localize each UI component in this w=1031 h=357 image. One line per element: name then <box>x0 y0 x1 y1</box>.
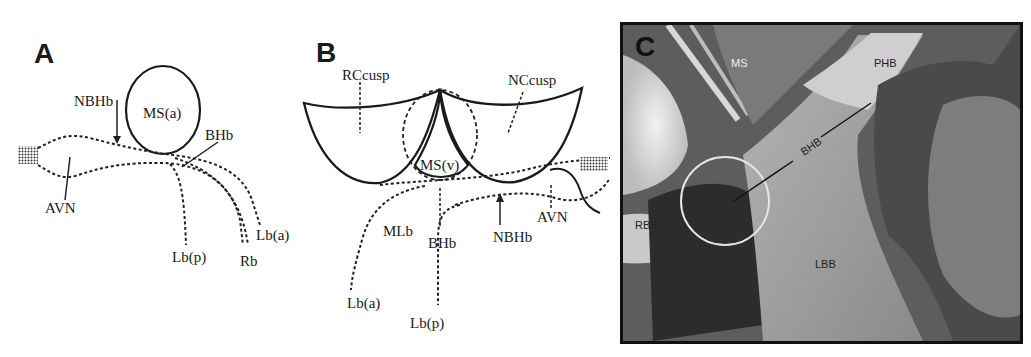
label-lbb: LBB <box>815 258 836 270</box>
rb-branch-dotted <box>175 158 248 245</box>
label-ms-v: MS(v) <box>420 157 459 174</box>
nbhb-arrowhead <box>113 136 121 144</box>
panel-c-photo-rendering: MS PHB BHB RBB LBB <box>623 25 1020 341</box>
lb-p-branch-dotted <box>438 205 460 305</box>
nccusp-pointer <box>508 92 523 133</box>
avn-solid-line <box>550 169 600 213</box>
label-bhb: BHb <box>205 127 233 143</box>
label-rb: Rb <box>240 253 258 269</box>
label-nccusp: NCcusp <box>508 72 556 88</box>
avn-pointer <box>65 157 70 200</box>
label-rbb: RBB <box>635 219 658 231</box>
avn-hatch <box>580 157 608 171</box>
panel-a-schematic: A MS(a) NBHb BHb AVN <box>0 0 300 357</box>
label-ms: MS <box>731 57 748 69</box>
label-avn: AVN <box>537 209 568 225</box>
panel-b-schematic: B RCc <box>280 0 620 357</box>
panel-c-photograph: MS PHB BHB RBB LBB C <box>620 22 1023 344</box>
photo-dark-left <box>648 184 763 341</box>
label-nbhb: NBHb <box>493 229 532 245</box>
label-bhb: BHb <box>428 235 456 251</box>
label-nbhb: NBHb <box>74 93 113 109</box>
nbhb-arrowhead <box>496 193 504 202</box>
label-phb: PHB <box>874 57 897 69</box>
panel-c-letter: C <box>635 31 655 63</box>
label-mlb: MLb <box>383 223 413 239</box>
lb-p-branch-dotted <box>170 164 186 245</box>
bhb-pointer <box>182 142 218 167</box>
bundle-lower-dotted <box>455 178 610 205</box>
label-ms-a: MS(a) <box>143 105 181 122</box>
label-lb-p: Lb(p) <box>410 315 444 332</box>
label-lb-a: Lb(a) <box>347 295 380 312</box>
panel-b-letter: B <box>316 37 336 69</box>
label-lb-p: Lb(p) <box>172 249 206 266</box>
label-rccusp: RCcusp <box>342 67 390 83</box>
avn-hatch <box>18 146 38 164</box>
panel-a-letter: A <box>34 38 54 70</box>
label-avn: AVN <box>45 200 76 216</box>
